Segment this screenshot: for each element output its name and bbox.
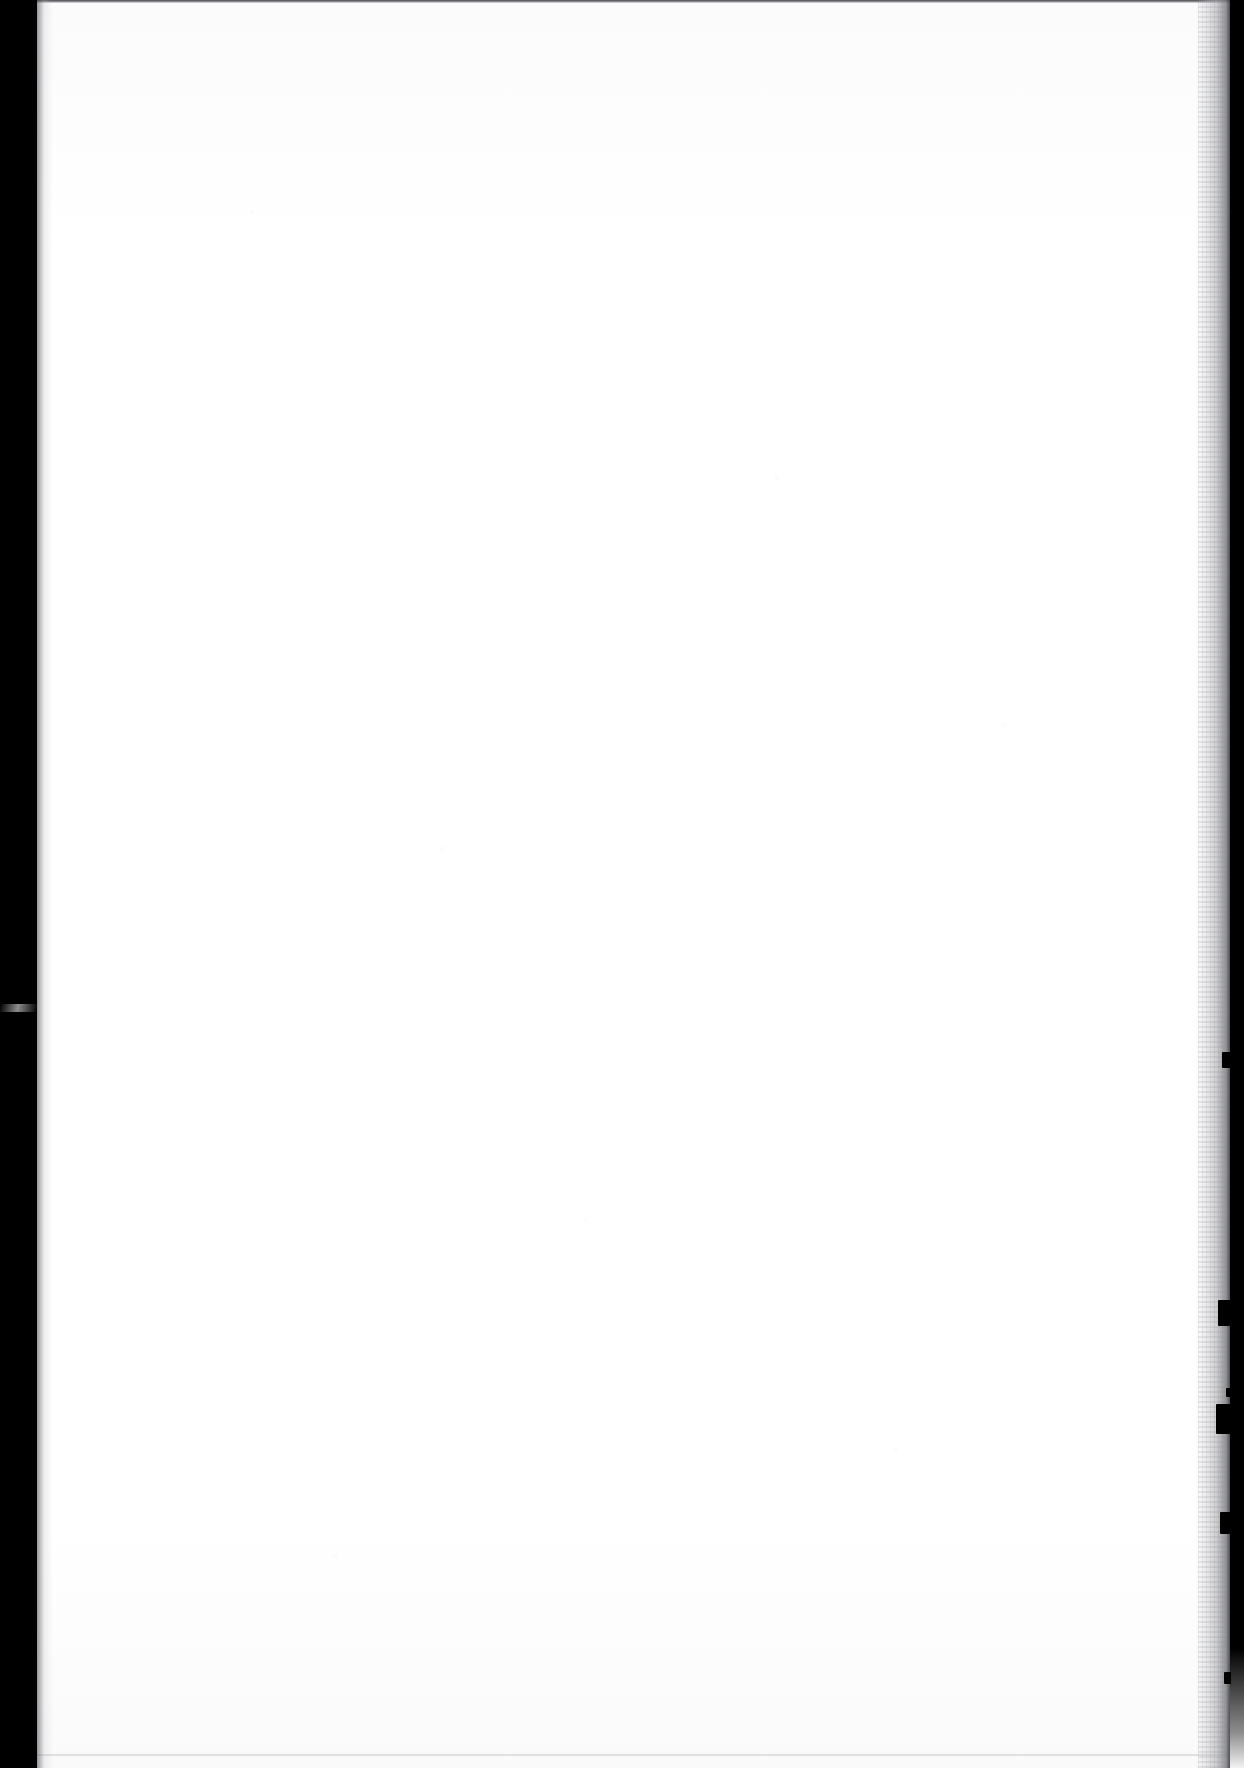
edge-nick [1220, 1512, 1231, 1534]
page-content-area [97, 90, 1170, 1678]
left-edge-shadow [37, 0, 53, 1768]
right-edge-shadow [1196, 0, 1230, 1768]
edge-nick [1222, 1052, 1231, 1068]
edge-nick [1216, 1404, 1231, 1434]
top-edge-rule [37, 0, 1230, 3]
left-scanner-gutter [0, 0, 37, 1768]
edge-nick [1218, 1300, 1231, 1326]
right-scanner-gutter [1230, 0, 1244, 1768]
scanned-page-canvas [0, 0, 1244, 1768]
bottom-edge-rule [37, 1754, 1230, 1756]
right-edge-grain [1198, 0, 1226, 1768]
edge-nick [1226, 1388, 1231, 1397]
edge-nick [1224, 1672, 1231, 1684]
paper-sheet [37, 0, 1230, 1768]
